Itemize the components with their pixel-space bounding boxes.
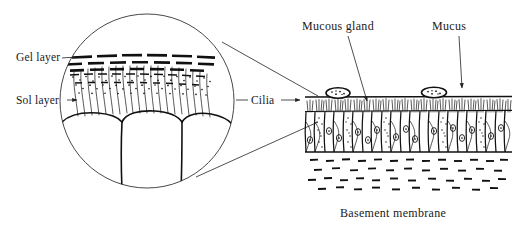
gel-layer-label: Gel layer <box>16 51 60 64</box>
basement-membrane-label: Basement membrane <box>340 206 446 220</box>
epithelium-diagram: Gel layer Sol layer Cilia <box>0 0 521 228</box>
mucous-gland-2 <box>422 87 447 97</box>
mucous-gland-label: Mucous gland <box>302 19 374 33</box>
mucus-label: Mucus <box>432 19 466 33</box>
cilia-label: Cilia <box>251 94 274 106</box>
mucous-gland-1 <box>326 88 350 98</box>
sol-layer-label: Sol layer <box>16 94 59 107</box>
figure-canvas: Gel layer Sol layer Cilia <box>0 0 521 228</box>
